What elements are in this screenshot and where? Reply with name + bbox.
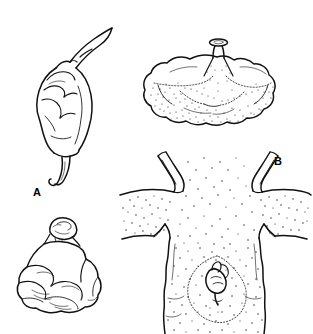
panel-c-illustration: C (10, 210, 115, 325)
panel-b-drawing (140, 36, 305, 136)
figure-plate: A (0, 0, 313, 334)
panel-a-illustration: A (18, 24, 128, 184)
panel-d-illustration: D (118, 148, 313, 334)
cropped-caption-strip (0, 0, 313, 9)
panel-b-illustration: B (140, 36, 305, 136)
panel-d-drawing (118, 148, 313, 334)
panel-a-drawing (18, 24, 128, 184)
panel-a-label: A (33, 187, 41, 198)
panel-d-stipple-upper (122, 157, 308, 244)
panel-c-drawing (10, 210, 115, 325)
